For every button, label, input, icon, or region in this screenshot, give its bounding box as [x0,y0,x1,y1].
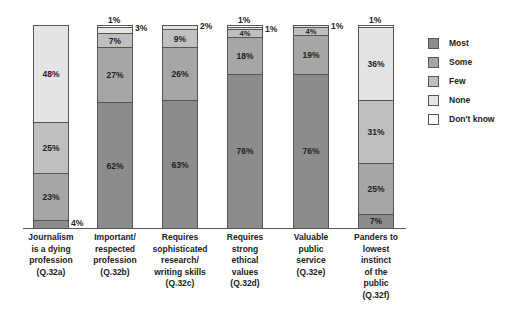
x-axis-label: Important/ respected profession (Q.32b) [80,232,150,278]
bar: 76%19%4%1% [293,25,329,228]
bar-segment [97,25,133,27]
bar: 23%25%48%4% [33,25,69,228]
legend-label: Some [449,57,472,67]
bar-segment [97,27,133,33]
bar-segment [227,27,263,29]
stacked-bar-chart: 23%25%48%4%62%27%7%3%1%63%26%9%2%76%18%4… [0,0,507,315]
legend-item: Don't know [428,113,494,125]
bar-segment: 48% [33,25,69,122]
legend-item: Most [428,37,469,49]
legend-swatch-icon [428,95,439,106]
segment-value-label: 1% [331,21,343,31]
bar-segment [227,25,263,27]
bar-segment: 18% [227,37,263,74]
segment-value-label: 1% [369,15,381,25]
x-axis-label: Panders to lowest instinct of the public… [341,232,411,301]
legend-swatch-icon [428,57,439,68]
legend-item: None [428,94,470,106]
bar-segment: 4% [227,29,263,37]
bar-segment [33,220,69,228]
x-axis-label: Journalism is a dying profession (Q.32a) [16,232,86,278]
bar-segment: 7% [97,33,133,47]
bar: 63%26%9%2% [162,25,198,228]
segment-value-label: 1% [108,15,120,25]
bar-segment: 27% [97,47,133,102]
bar: 62%27%7%3%1% [97,25,133,228]
bar-segment [162,25,198,29]
bar-segment: 76% [293,74,329,228]
legend-swatch-icon [428,114,439,125]
legend-label: None [449,95,470,105]
bar-segment: 36% [358,27,394,100]
legend-swatch-icon [428,38,439,49]
bar-segment: 76% [227,74,263,228]
bar-segment: 62% [97,102,133,228]
segment-value-label: 1% [265,24,277,34]
legend-label: Most [449,38,469,48]
bar-segment: 26% [162,47,198,100]
legend-label: Don't know [449,114,494,124]
bar: 7%25%31%36%1% [358,25,394,228]
legend-item: Few [428,75,466,87]
x-axis-label: Valuable public service (Q.32e) [276,232,346,278]
segment-value-label: 2% [200,21,212,31]
legend-item: Some [428,56,472,68]
bar-segment: 4% [293,27,329,35]
legend-swatch-icon [428,76,439,87]
bar-segment: 25% [33,122,69,173]
segment-value-label: 4% [71,218,83,228]
bar-segment: 23% [33,173,69,220]
bar-segment: 19% [293,35,329,74]
bar-segment: 9% [162,29,198,47]
bar-segment [358,25,394,27]
bar-segment [293,25,329,27]
legend-label: Few [449,76,466,86]
bar-segment: 31% [358,100,394,163]
segment-value-label: 3% [135,23,147,33]
x-axis-label: Requires sophisticated research/ writing… [145,232,215,290]
bar: 76%18%4%1%1% [227,25,263,228]
x-axis-label: Requires strong ethical values (Q.32d) [210,232,280,290]
segment-value-label: 1% [238,15,250,25]
bar-segment: 63% [162,100,198,228]
bar-segment: 7% [358,214,394,228]
x-axis-baseline [23,228,406,229]
bar-segment: 25% [358,163,394,214]
